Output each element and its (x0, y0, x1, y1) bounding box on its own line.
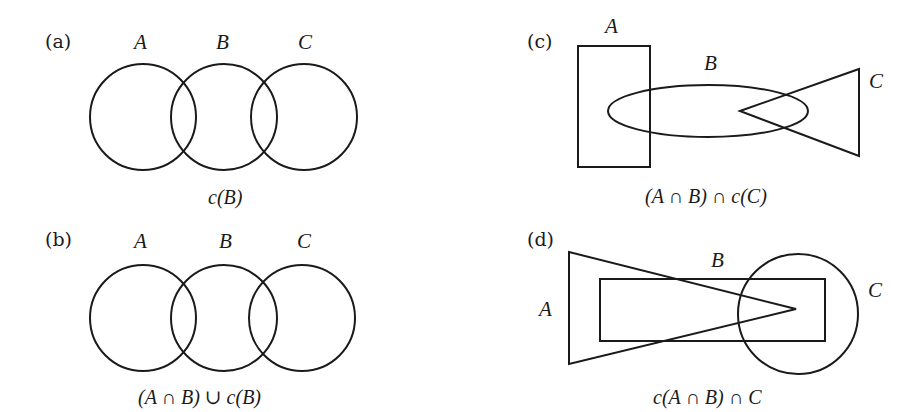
set-b-label: B (704, 51, 717, 75)
set-c-triangle (740, 69, 859, 156)
set-b-label: B (219, 229, 232, 253)
set-a-triangle (569, 252, 796, 364)
panel-c-label: (c) (527, 30, 552, 52)
set-c-circle (251, 64, 357, 170)
venn-diagrams-figure: (a) A B C c(B) (b) A B C (A ∩ B) ∪ c(B) … (0, 0, 919, 412)
panel-c-caption: (A ∩ B) ∩ c(C) (645, 185, 767, 208)
panel-d: (d) A B C c(A ∩ B) ∩ C (527, 228, 883, 409)
set-b-circle (171, 265, 277, 371)
set-c-circle (738, 254, 858, 374)
set-a-label: A (132, 229, 147, 253)
panel-b-label: (b) (45, 228, 72, 250)
set-a-label: A (603, 14, 618, 38)
panel-d-label: (d) (527, 228, 554, 250)
panel-a: (a) A B C c(B) (45, 30, 357, 209)
set-a-circle (90, 64, 196, 170)
panel-b-caption: (A ∩ B) ∪ c(B) (138, 386, 261, 409)
panel-b: (b) A B C (A ∩ B) ∪ c(B) (45, 228, 355, 409)
set-a-label: A (537, 297, 552, 321)
panel-a-caption: c(B) (208, 186, 243, 209)
set-a-circle (90, 265, 196, 371)
set-b-label: B (711, 248, 724, 272)
set-c-label: C (869, 69, 884, 93)
panel-c: (c) A B C (A ∩ B) ∩ c(C) (527, 14, 884, 208)
set-b-ellipse (608, 85, 808, 137)
set-a-rectangle (578, 46, 650, 167)
set-c-label: C (868, 278, 883, 302)
set-c-circle (249, 265, 355, 371)
set-c-label: C (297, 229, 312, 253)
set-a-label: A (132, 30, 147, 54)
set-b-label: B (216, 30, 229, 54)
set-c-label: C (298, 30, 313, 54)
panel-d-caption: c(A ∩ B) ∩ C (653, 386, 762, 409)
set-b-circle (171, 64, 277, 170)
panel-a-label: (a) (45, 30, 71, 52)
